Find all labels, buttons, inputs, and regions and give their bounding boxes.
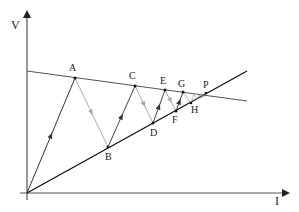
point-A: [74, 77, 77, 80]
label-P: P: [203, 79, 209, 90]
diagram-canvas: V I A B C D E F G H P: [0, 0, 299, 212]
point-P: [205, 92, 208, 95]
point-B: [107, 146, 110, 149]
label-F: F: [172, 114, 178, 125]
x-axis-label: I: [275, 194, 279, 208]
point-G: [182, 91, 185, 94]
label-B: B: [105, 151, 112, 162]
label-H: H: [191, 104, 198, 115]
y-axis-label: V: [11, 18, 20, 32]
point-F: [175, 110, 178, 113]
point-E: [164, 89, 167, 92]
label-D: D: [150, 127, 157, 138]
label-A: A: [69, 62, 77, 73]
zigzag-path: [27, 78, 206, 193]
load-line: [27, 71, 247, 101]
points: [74, 77, 208, 149]
point-D: [152, 122, 155, 125]
label-G: G: [178, 78, 185, 89]
point-C: [134, 85, 137, 88]
label-E: E: [160, 75, 166, 86]
label-C: C: [129, 70, 136, 81]
